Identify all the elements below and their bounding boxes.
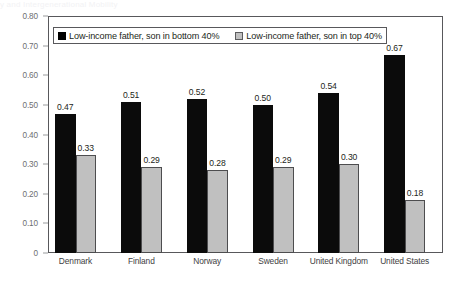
bar-value-label: 0.29 — [275, 155, 291, 165]
bar-group: 0.500.29 — [253, 16, 294, 253]
bar-value-label: 0.33 — [78, 143, 94, 153]
y-tick-label: 0.10 — [22, 219, 38, 228]
bar-chart-figure: y and Intergenerational Mobility 0.800.7… — [0, 0, 459, 290]
bar[interactable] — [405, 200, 426, 253]
y-tick-label: 0 — [34, 249, 38, 258]
bar-value-label: 0.51 — [123, 90, 139, 100]
bar-value-label: 0.67 — [386, 43, 402, 53]
y-tick-label: 0.70 — [22, 41, 38, 50]
x-tick-label: United Kingdom — [310, 256, 368, 266]
bar-value-label: 0.29 — [143, 155, 159, 165]
bar[interactable] — [187, 99, 208, 253]
x-axis: DenmarkFinlandNorwaySwedenUnited Kingdom… — [48, 256, 443, 276]
bar-value-label: 0.54 — [320, 81, 336, 91]
bar[interactable] — [141, 167, 162, 253]
x-tick-label: Norway — [193, 256, 221, 266]
x-tick-label: Denmark — [59, 256, 92, 266]
bar-value-label: 0.30 — [341, 152, 357, 162]
bars-layer: 0.470.330.510.290.520.280.500.290.540.30… — [48, 16, 443, 253]
bar-group: 0.520.28 — [187, 16, 228, 253]
bar[interactable] — [384, 55, 405, 253]
bar-value-label: 0.28 — [209, 158, 225, 168]
y-tick-label: 0.30 — [22, 160, 38, 169]
cut-off-title: y and Intergenerational Mobility — [0, 0, 459, 9]
bar[interactable] — [121, 102, 142, 253]
bar[interactable] — [318, 93, 339, 253]
bar[interactable] — [273, 167, 294, 253]
bar-value-label: 0.50 — [255, 93, 271, 103]
y-tick-label: 0.50 — [22, 100, 38, 109]
bar-value-label: 0.18 — [407, 188, 423, 198]
bar-group: 0.470.33 — [55, 16, 96, 253]
bar[interactable] — [207, 170, 228, 253]
y-tick-label: 0.20 — [22, 189, 38, 198]
bar-value-label: 0.52 — [189, 87, 205, 97]
bar[interactable] — [55, 114, 76, 253]
bar-group: 0.670.18 — [384, 16, 425, 253]
x-tick-label: United States — [380, 256, 429, 266]
y-tick-label: 0.80 — [22, 12, 38, 21]
bar[interactable] — [339, 164, 360, 253]
y-tick-label: 0.60 — [22, 71, 38, 80]
bar-value-label: 0.47 — [57, 102, 73, 112]
bar[interactable] — [76, 155, 97, 253]
y-tick-label: 0.40 — [22, 130, 38, 139]
x-tick-label: Sweden — [258, 256, 288, 266]
bar-group: 0.540.30 — [318, 16, 359, 253]
y-axis: 0.800.700.600.500.400.300.200.100 — [0, 0, 48, 290]
x-tick-label: Finland — [128, 256, 155, 266]
bar[interactable] — [253, 105, 274, 253]
bar-group: 0.510.29 — [121, 16, 162, 253]
